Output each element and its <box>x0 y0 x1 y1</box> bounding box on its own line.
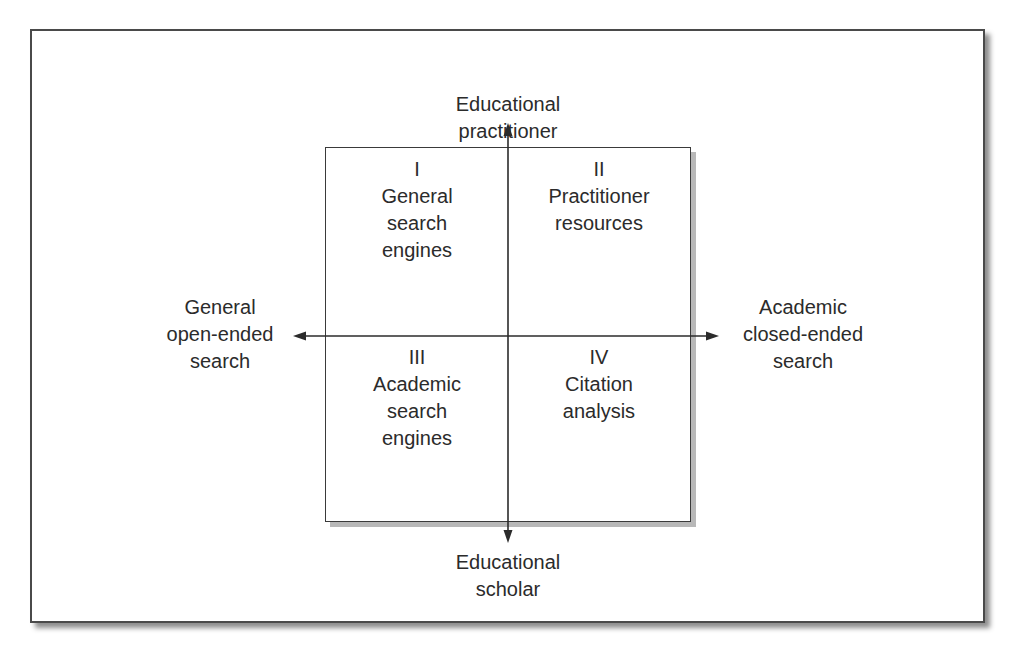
quadrant-numeral: II <box>512 156 686 183</box>
quadrant-2: II Practitioner resources <box>512 156 686 237</box>
quadrant-3: III Academic search engines <box>330 344 504 452</box>
axis-label-right: Academic closed-ended search <box>718 294 888 375</box>
quadrant-label: Citation analysis <box>512 371 686 425</box>
quadrant-label: Academic search engines <box>330 371 504 452</box>
quadrant-numeral: I <box>330 156 504 183</box>
axis-label-top: Educational practitioner <box>408 91 608 145</box>
axis-label-bottom: Educational scholar <box>408 549 608 603</box>
quadrant-numeral: III <box>330 344 504 371</box>
quadrant-label: Practitioner resources <box>512 183 686 237</box>
quadrant-numeral: IV <box>512 344 686 371</box>
quadrant-1: I General search engines <box>330 156 504 264</box>
quadrant-4: IV Citation analysis <box>512 344 686 425</box>
quadrant-label: General search engines <box>330 183 504 264</box>
axis-label-left: General open-ended search <box>140 294 300 375</box>
